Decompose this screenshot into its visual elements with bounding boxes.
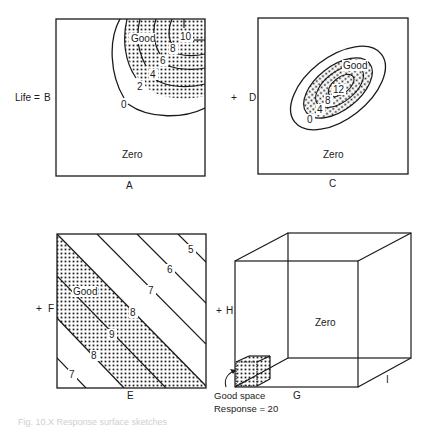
panel-ghi — [225, 233, 411, 387]
plus-sign: + — [231, 92, 237, 103]
axis-label-a: A — [126, 180, 133, 191]
axis-label-e: E — [127, 390, 134, 401]
contour-label: 0 — [307, 114, 313, 125]
cube-back-face — [288, 233, 411, 358]
axis-label-d: D — [249, 92, 256, 103]
contour-label: 10 — [180, 31, 192, 42]
figure-caption: Fig. 10.X Response surface sketches — [18, 417, 168, 427]
good-label-ef: Good — [73, 286, 97, 297]
panel-cd: Good 12 8 4 0 Zero C + D — [231, 18, 408, 189]
contour-label: 2 — [137, 81, 143, 92]
contour-0 — [112, 19, 124, 98]
zero-label-cd: Zero — [323, 149, 344, 160]
plus-sign: + — [36, 303, 42, 314]
axis-label-b: B — [44, 92, 51, 103]
life-equals-label: Life = — [15, 92, 40, 103]
axis-label-h: H — [226, 305, 233, 316]
response-surface-diagram: Good 10 8 6 4 2 0 Zero A Life = B — [0, 0, 429, 428]
zero-label-cube: Zero — [315, 317, 336, 328]
contour-label: 12 — [333, 84, 345, 95]
good-label-ab: Good — [131, 33, 155, 44]
panel-ef: Good 5 6 7 8 9 8 7 E + F — [36, 234, 206, 401]
axis-label-g: G — [293, 390, 301, 401]
contour-label: 6 — [167, 264, 173, 275]
contour-label: 8 — [91, 350, 97, 361]
axis-label-c: C — [329, 178, 336, 189]
plus-sign: + — [216, 305, 222, 316]
contour-label: 8 — [130, 307, 136, 318]
axis-label-i: I — [386, 374, 389, 385]
contour-label: 7 — [148, 285, 154, 296]
response-label: Response = 20 — [214, 403, 278, 414]
contour-label: 8 — [170, 43, 176, 54]
good-label-cd: Good — [343, 60, 367, 71]
good-space-label: Good space — [214, 390, 265, 401]
axis-label-f: F — [48, 303, 54, 314]
good-space-cube — [236, 356, 270, 386]
contour-label: 0 — [121, 99, 127, 110]
zero-label-ab: Zero — [122, 149, 143, 160]
contour-label: 4 — [317, 104, 323, 115]
contour-label: 9 — [109, 329, 115, 340]
contour-label: 8 — [325, 95, 331, 106]
contour-label: 7 — [69, 369, 75, 380]
contour-label: 6 — [160, 55, 166, 66]
panel-ab: Good 10 8 6 4 2 0 Zero A Life = B — [15, 19, 205, 191]
contour-label: 5 — [188, 244, 194, 255]
contour-label: 4 — [150, 69, 156, 80]
